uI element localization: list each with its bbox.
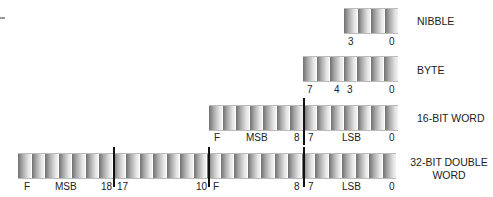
bit-cell (383, 154, 397, 178)
byte-name: BYTE (417, 64, 444, 76)
bit-cell (371, 57, 385, 81)
dword-divider-10-f (208, 147, 210, 187)
word-bit-0-label: 0 (389, 132, 395, 143)
bit-cell (32, 154, 46, 178)
byte-boundary-divider (303, 98, 305, 145)
bit-cell (357, 57, 371, 81)
bit-cell (221, 154, 235, 178)
bit-cell (317, 57, 331, 81)
bit-cell (72, 154, 86, 178)
dword-lsb-label: LSB (342, 181, 361, 192)
bit-cell (248, 154, 262, 178)
bit-cell (236, 106, 250, 130)
bit-cell (290, 106, 304, 130)
dword-divider-18-17 (113, 147, 115, 187)
bit-cell (317, 106, 331, 130)
word-bit-8-label: 8 (294, 132, 300, 143)
bit-cell (329, 154, 343, 178)
bit-cell (250, 106, 264, 130)
bit-cell (331, 106, 345, 130)
bit-cell (384, 57, 398, 81)
bit-cell (99, 154, 113, 178)
bit-cell (234, 154, 248, 178)
bit-cell (369, 154, 383, 178)
dword-bit-18-label: 18 (101, 181, 112, 192)
bit-cell (113, 154, 127, 178)
dword-register (18, 153, 396, 179)
nibble-bit-0-label: 0 (389, 36, 395, 47)
bit-cell (344, 106, 358, 130)
edge-mark (0, 17, 5, 19)
byte-bit-3-label: 3 (347, 84, 353, 95)
nibble-name: NIBBLE (417, 15, 454, 27)
bit-cell (153, 154, 167, 178)
bit-cell (275, 154, 289, 178)
byte-bit-7-label: 7 (307, 84, 313, 95)
bit-cell (180, 154, 194, 178)
bit-cell (59, 154, 73, 178)
dword-bit-7-label: 7 (308, 181, 314, 192)
bit-cell (356, 154, 370, 178)
bit-cell (209, 106, 223, 130)
word-bit-7-label: 7 (308, 132, 314, 143)
bit-cell (277, 106, 291, 130)
bit-cell (263, 106, 277, 130)
bit-cell (358, 106, 372, 130)
bit-cell (371, 106, 385, 130)
bit-cell (194, 154, 208, 178)
bit-cell (304, 106, 318, 130)
bit-cell (371, 9, 385, 33)
word-msb-label: MSB (246, 132, 268, 143)
bit-cell (261, 154, 275, 178)
dword-bit-10-label: 10 (196, 181, 207, 192)
word-name: 16-BIT WORD (417, 112, 484, 124)
bit-cell (330, 57, 344, 81)
nibble-register (344, 8, 398, 34)
bit-cell (342, 154, 356, 178)
bit-cell (344, 9, 358, 33)
bit-cell (126, 154, 140, 178)
word-lsb-label: LSB (342, 132, 361, 143)
bit-cell (288, 154, 302, 178)
bit-cell (303, 57, 317, 81)
bit-cell (167, 154, 181, 178)
bit-cell (385, 9, 399, 33)
word-bit-f-label: F (214, 132, 220, 143)
bit-cell (140, 154, 154, 178)
dword-msb-label: MSB (55, 181, 77, 192)
byte-bit-0-label: 0 (389, 84, 395, 95)
bit-cell (385, 106, 399, 130)
dword-name-line1: 32-BIT DOUBLE (404, 156, 493, 168)
dword-divider-8-7 (303, 147, 305, 187)
byte-bit-4-label: 4 (334, 84, 340, 95)
bit-cell (45, 154, 59, 178)
dword-bit-17-label: 17 (117, 181, 128, 192)
dword-bit-0-label: 0 (389, 181, 395, 192)
dword-bit-f2-label: F (213, 181, 219, 192)
bit-cell (315, 154, 329, 178)
dword-bit-8-label: 8 (294, 181, 300, 192)
bit-cell (344, 57, 358, 81)
dword-bit-f-label: F (24, 181, 30, 192)
bit-cell (358, 9, 372, 33)
bit-cell (18, 154, 32, 178)
byte-register (303, 56, 398, 82)
bit-cell (86, 154, 100, 178)
nibble-bit-3-label: 3 (348, 36, 354, 47)
dword-name-line2: WORD (404, 169, 493, 181)
bit-cell (223, 106, 237, 130)
